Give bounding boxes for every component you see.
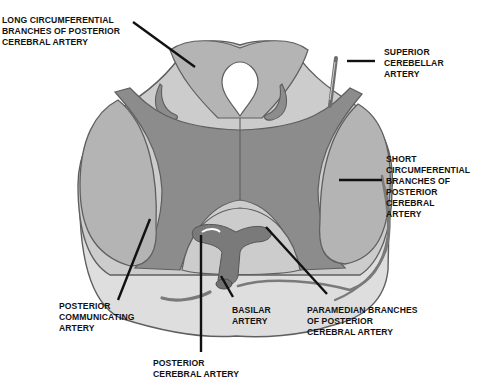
label-paramedian-branches: PARAMEDIAN BRANCHES OF POSTERIOR CEREBRA…	[307, 305, 418, 338]
label-posterior-cerebral-artery: POSTERIOR CEREBRAL ARTERY	[153, 358, 239, 380]
label-short-circumferential-branches: SHORT CIRCUMFERENTIAL BRANCHES OF POSTER…	[386, 154, 470, 220]
label-long-circumferential-branches: LONG CIRCUMFERENTIAL BRANCHES OF POSTERI…	[2, 15, 120, 48]
label-basilar-artery: BASILAR ARTERY	[232, 305, 271, 327]
label-superior-cerebellar-artery: SUPERIOR CEREBELLAR ARTERY	[384, 47, 444, 80]
label-posterior-communicating-artery: POSTERIOR COMMUNICATING ARTERY	[59, 301, 135, 334]
